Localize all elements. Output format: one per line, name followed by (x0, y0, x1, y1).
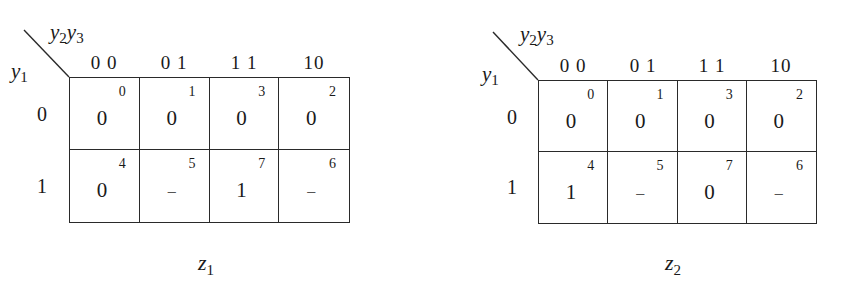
kmap-cell-m7: 07 (678, 152, 747, 223)
karnaugh-map-z1: y2y3 y1 0 0 0 1 1 1 10 0 1 00 01 03 02 0… (0, 0, 420, 294)
minterm-index: 1 (657, 88, 664, 102)
minterm-index: 7 (258, 157, 265, 171)
kmap-cell-m0: 00 (70, 78, 140, 150)
cell-value: 1 (563, 182, 579, 203)
minterm-index: 0 (587, 88, 594, 102)
kmap-caption-z2: z2 (665, 252, 681, 278)
minterm-index: 5 (189, 157, 196, 171)
cell-value: 0 (563, 111, 579, 132)
dont-care-value: – (771, 185, 787, 201)
minterm-index: 3 (258, 85, 265, 99)
minterm-index: 0 (119, 85, 126, 99)
kmap-cell-m4: 14 (539, 152, 608, 223)
kmap-cell-m3: 03 (678, 81, 747, 152)
minterm-index: 3 (726, 88, 733, 102)
dont-care-value: – (164, 183, 180, 199)
column-header-00: 0 0 (538, 56, 608, 75)
minterm-index: 2 (329, 85, 336, 99)
minterm-index: 6 (329, 157, 336, 171)
kmap-cell-m6: –6 (747, 152, 816, 223)
kmap-cell-m5: –5 (608, 152, 677, 223)
row-variable-label: y1 (482, 64, 499, 88)
kmap-cell-m4: 04 (70, 150, 140, 222)
minterm-index: 5 (657, 159, 664, 173)
row-header-0: 0 (502, 107, 522, 127)
dont-care-value: – (303, 183, 319, 199)
kmap-cell-m7: 17 (210, 150, 280, 222)
kmap-cell-m1: 01 (140, 78, 210, 150)
karnaugh-map-z2: y2y3 y1 0 0 0 1 1 1 10 0 1 00 01 03 02 1… (469, 0, 857, 294)
kmap-cell-m2: 02 (279, 78, 349, 150)
row-variable-label: y1 (11, 61, 28, 85)
kmap-grid: 00 01 03 02 14 –5 07 –6 (538, 80, 817, 224)
kmap-cell-m5: –5 (140, 150, 210, 222)
dont-care-value: – (632, 185, 648, 201)
row-header-0: 0 (32, 104, 52, 124)
minterm-index: 7 (726, 159, 733, 173)
kmap-cell-m0: 00 (539, 81, 608, 152)
cell-value: 0 (771, 111, 787, 132)
column-header-01: 0 1 (608, 56, 678, 75)
column-header-10: 10 (279, 53, 349, 72)
cell-value: 0 (234, 108, 250, 129)
cell-value: 0 (702, 111, 718, 132)
cell-value: 0 (94, 180, 110, 201)
column-header-11: 1 1 (677, 56, 747, 75)
row-header-1: 1 (502, 177, 522, 197)
cell-value: 0 (164, 108, 180, 129)
row-header-1: 1 (32, 176, 52, 196)
kmap-caption-z1: z1 (198, 252, 214, 278)
minterm-index: 2 (796, 88, 803, 102)
kmap-cell-m6: –6 (279, 150, 349, 222)
minterm-index: 4 (587, 159, 594, 173)
cell-value: 0 (632, 111, 648, 132)
kmap-cell-m3: 03 (210, 78, 280, 150)
kmap-cell-m2: 02 (747, 81, 816, 152)
kmap-cell-m1: 01 (608, 81, 677, 152)
column-variables-label: y2y3 (50, 22, 84, 46)
column-header-10: 10 (746, 56, 816, 75)
column-header-00: 0 0 (69, 53, 139, 72)
column-header-01: 0 1 (139, 53, 209, 72)
minterm-index: 4 (119, 157, 126, 171)
column-variables-label: y2y3 (520, 24, 554, 48)
column-header-11: 1 1 (209, 53, 279, 72)
cell-value: 0 (94, 108, 110, 129)
minterm-index: 1 (189, 85, 196, 99)
cell-value: 0 (303, 108, 319, 129)
kmap-grid: 00 01 03 02 04 –5 17 –6 (69, 77, 350, 223)
minterm-index: 6 (796, 159, 803, 173)
cell-value: 0 (702, 182, 718, 203)
cell-value: 1 (234, 180, 250, 201)
